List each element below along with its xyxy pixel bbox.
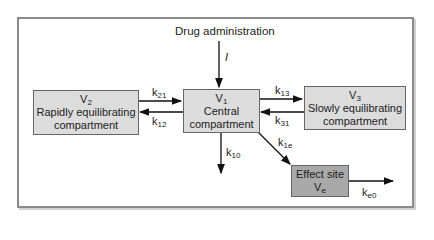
v2-line1: Rapidly equilibrating — [34, 106, 138, 119]
drug-administration-label: Drug administration — [175, 25, 275, 37]
compartment-effect-site: Effect site Ve — [291, 165, 349, 197]
ve-line1: Effect site — [292, 168, 348, 181]
rate-k31: k31 — [275, 114, 289, 126]
rate-k1e: k1e — [278, 136, 292, 148]
v2-line2: compartment — [34, 119, 138, 132]
compartment-v1: V1 Central compartment — [183, 89, 260, 133]
rate-k21: k21 — [152, 86, 166, 98]
v3-line2: compartment — [305, 115, 405, 128]
rate-k12: k12 — [152, 115, 166, 127]
input-rate-label: I — [225, 51, 228, 63]
rate-k10: k10 — [226, 146, 240, 158]
v1-symbol: V — [216, 92, 223, 104]
compartment-v3: V3 Slowly equilibrating compartment — [304, 86, 406, 130]
rate-k13: k13 — [275, 84, 289, 96]
v1-line1: Central — [184, 105, 259, 118]
compartment-v2: V2 Rapidly equilibrating compartment — [33, 90, 139, 135]
rate-ke0: ke0 — [362, 186, 376, 198]
v1-line2: compartment — [184, 118, 259, 131]
v3-line1: Slowly equilibrating — [305, 102, 405, 115]
ve-sub: e — [321, 186, 325, 195]
